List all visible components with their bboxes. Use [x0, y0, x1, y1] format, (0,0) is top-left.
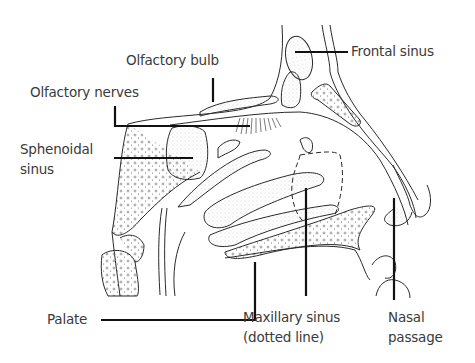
label-olfactory-nerves: Olfactory nerves: [30, 84, 139, 100]
label-olfactory-bulb: Olfactory bulb: [126, 52, 219, 68]
label-palate: Palate: [47, 311, 87, 327]
nasal-anatomy-diagram: Olfactory bulb Olfactory nerves Sphenoid…: [0, 0, 475, 363]
label-frontal-sinus: Frontal sinus: [351, 43, 434, 59]
label-nasal-passage-line1: Nasal: [388, 309, 424, 325]
label-maxillary-sinus-line1: Maxillary sinus: [243, 309, 340, 325]
label-nasal-passage-line2: passage: [388, 329, 443, 345]
label-sphenoidal-sinus-line1: Sphenoidal: [20, 141, 93, 157]
label-maxillary-sinus-line2: (dotted line): [243, 329, 324, 345]
label-sphenoidal-sinus-line2: sinus: [20, 161, 54, 177]
